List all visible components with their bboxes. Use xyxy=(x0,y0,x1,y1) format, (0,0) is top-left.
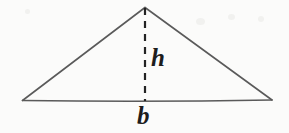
height-label: h xyxy=(151,45,165,70)
triangle-outline xyxy=(23,8,273,102)
triangle-diagram-figure: h b xyxy=(0,0,289,133)
triangle-left-side xyxy=(23,8,146,101)
base-label: b xyxy=(137,103,150,128)
